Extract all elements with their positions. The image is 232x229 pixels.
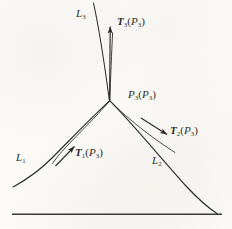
right-curve-path-inner bbox=[110, 101, 175, 152]
tangent-up-symbol: T bbox=[117, 15, 124, 27]
tangent-right-paren-close: ) bbox=[194, 124, 198, 136]
curve-label-right-subscript: 2 bbox=[158, 160, 161, 167]
curve-label-left-subscript: 1 bbox=[22, 157, 25, 164]
curve-label-left: L1 bbox=[16, 152, 26, 165]
tangent-up-paren-close: ) bbox=[141, 15, 145, 27]
tangent-up-arg-symbol: P bbox=[131, 15, 138, 27]
tangent-left-arg-symbol: P bbox=[89, 146, 96, 158]
tangent-vector-left-label: T1(P3) bbox=[75, 147, 103, 160]
junction-point-label: P3(P3) bbox=[128, 89, 156, 102]
tangent-left-symbol: T bbox=[75, 146, 82, 158]
tangent-vector-up-arrow bbox=[110, 27, 111, 101]
tangent-left-paren-close: ) bbox=[99, 146, 103, 158]
curve-label-upper-subscript: 3 bbox=[82, 13, 85, 20]
figure-canvas: L3 L1 L2 P3(P3) T3(P3) T1(P3) T2(P3) bbox=[0, 0, 232, 229]
tangent-vector-right-label: T2(P3) bbox=[170, 125, 198, 138]
tangent-vector-up-label: T3(P3) bbox=[117, 16, 145, 29]
junction-point-symbol: P bbox=[128, 88, 135, 100]
curve-label-right: L2 bbox=[152, 155, 162, 168]
tangent-right-arg-symbol: P bbox=[184, 124, 191, 136]
junction-arg-symbol: P bbox=[142, 88, 149, 100]
tangent-right-symbol: T bbox=[170, 124, 177, 136]
diagram-svg bbox=[0, 0, 232, 229]
junction-paren-close: ) bbox=[152, 88, 156, 100]
left-curve-path bbox=[13, 101, 109, 187]
right-curve-path bbox=[110, 101, 217, 214]
tangent-vector-right-arrow bbox=[141, 118, 167, 135]
curve-label-upper: L3 bbox=[76, 8, 86, 21]
upper-curve-path bbox=[94, 3, 110, 101]
